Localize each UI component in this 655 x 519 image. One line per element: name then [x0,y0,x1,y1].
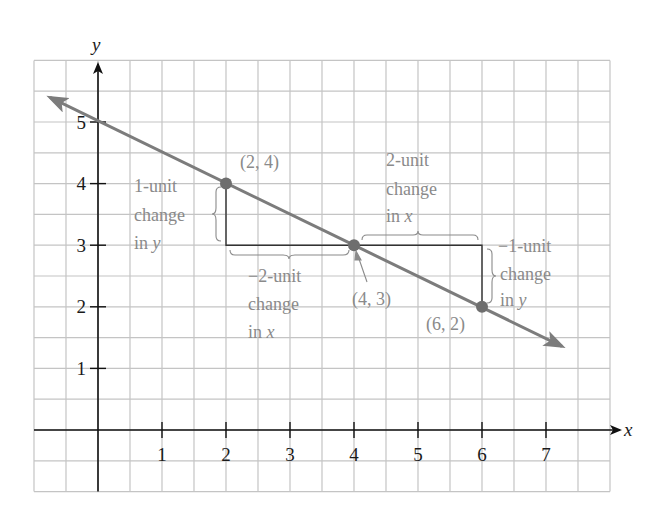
x-axis-label: x [623,419,633,440]
linear-function-line [50,97,354,245]
pointer-arrow [355,251,367,282]
svg-text:change: change [248,294,299,314]
point-4-3 [348,239,360,251]
brace-2-unit-x [362,231,478,240]
svg-text:in x: in x [386,206,413,226]
x-tick-label: 6 [477,444,487,465]
svg-text:change: change [500,264,551,284]
y-tick-label: 2 [77,296,87,317]
svg-text:in y: in y [500,290,527,310]
svg-text:change: change [386,179,437,199]
annotation-neg1-unit-change-y: −1-unit change in y [498,236,551,310]
x-tick-label: 7 [541,444,551,465]
x-tick-label: 5 [413,444,423,465]
point-6-2 [476,301,488,313]
svg-text:−1-unit: −1-unit [498,236,551,256]
y-axis-label: y [90,34,101,55]
point-2-4 [220,178,232,190]
svg-text:change: change [134,205,185,225]
point-label-4-3: (4, 3) [352,289,391,310]
y-tick-label: 4 [77,173,87,194]
point-label-2-4: (2, 4) [240,152,279,173]
x-tick-label: 2 [221,444,231,465]
annotation-neg2-unit-change-x: −2-unit change in x [248,266,301,342]
x-tick-label: 1 [157,444,167,465]
point-label-6-2: (6, 2) [426,314,465,335]
svg-text:−2-unit: −2-unit [248,266,301,286]
y-tick-label: 1 [77,358,87,379]
svg-text:2-unit: 2-unit [386,150,429,170]
svg-text:in y: in y [134,233,161,253]
svg-text:in x: in x [248,322,275,342]
y-tick-label: 3 [77,235,87,256]
coordinate-plane: 1 2 3 4 5 6 7 1 2 3 4 5 x y [0,0,655,519]
svg-text:1-unit: 1-unit [134,176,177,196]
x-tick-label: 3 [285,444,295,465]
annotation-1-unit-change-y: 1-unit change in y [134,176,185,253]
x-tick-label: 4 [349,444,359,465]
